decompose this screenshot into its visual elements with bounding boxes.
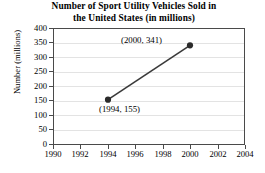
x-tick-label: 1992 <box>65 150 95 159</box>
x-tick-label: 1994 <box>93 150 123 159</box>
y-tick-label: 300 <box>13 53 47 62</box>
y-tick-label: 50 <box>13 125 47 134</box>
y-tick <box>49 42 53 43</box>
data-point-label-2000: (2000, 341) <box>121 35 162 45</box>
y-tick-label: 400 <box>13 24 47 33</box>
chart-title-line-2: the United States (in millions) <box>73 13 195 23</box>
x-tick-label: 1998 <box>148 150 178 159</box>
gridline <box>54 72 244 73</box>
x-tick-label: 1990 <box>38 150 68 159</box>
y-tick-label: 200 <box>13 82 47 91</box>
gridline <box>54 101 244 102</box>
data-point-label-1994: (1994, 155) <box>99 104 140 114</box>
gridline <box>54 130 244 131</box>
y-tick <box>49 71 53 72</box>
gridline <box>54 57 244 58</box>
x-tick-label: 2004 <box>230 150 260 159</box>
gridline <box>54 86 244 87</box>
x-tick-label: 2000 <box>175 150 205 159</box>
y-tick-label: 250 <box>13 67 47 76</box>
chart-title: Number of Sport Utility Vehicles Sold in… <box>28 1 240 24</box>
chart-figure: Number of Sport Utility Vehicles Sold in… <box>0 0 265 173</box>
chart-title-line-1: Number of Sport Utility Vehicles Sold in <box>52 1 217 11</box>
y-tick <box>49 129 53 130</box>
y-tick <box>49 86 53 87</box>
x-tick-label: 1996 <box>120 150 150 159</box>
y-tick-label: 150 <box>13 96 47 105</box>
y-tick-label: 100 <box>13 111 47 120</box>
y-tick <box>49 115 53 116</box>
plot-area <box>53 28 245 145</box>
y-tick <box>49 100 53 101</box>
x-tick-label: 2002 <box>203 150 233 159</box>
y-tick <box>49 28 53 29</box>
y-tick-label: 350 <box>13 38 47 47</box>
y-tick <box>49 57 53 58</box>
y-tick-label: 0 <box>13 140 47 149</box>
gridline <box>54 115 244 116</box>
